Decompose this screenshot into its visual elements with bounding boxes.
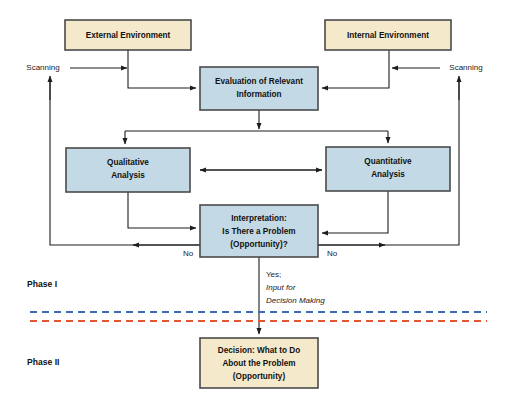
decision-label-line-1: Decision: What to Do [218, 346, 300, 355]
quantitative-analysis-box[interactable] [326, 147, 450, 191]
phase-two-label: Phase II [27, 357, 59, 367]
external-environment-label: External Environment [86, 31, 171, 40]
no-left-label: No [183, 249, 194, 258]
diagram-page: External Environment Internal Environmen… [0, 0, 507, 413]
node-internal-environment[interactable]: Internal Environment [325, 20, 451, 50]
node-decision[interactable]: Decision: What to Do About the Problem (… [200, 338, 318, 388]
flowchart-svg: External Environment Internal Environmen… [0, 0, 507, 413]
scanning-left-label: Scanning [26, 63, 59, 72]
qualitative-analysis-label-line-1: Qualitative [107, 158, 149, 167]
no-right-label: No [327, 249, 338, 258]
decision-label-line-3: (Opportunity) [233, 372, 286, 381]
decision-label-line-2: About the Problem [222, 359, 295, 368]
node-quantitative-analysis[interactable]: Quantitative Analysis [326, 147, 450, 191]
node-qualitative-analysis[interactable]: Qualitative Analysis [66, 148, 190, 192]
phase-one-label: Phase I [27, 279, 57, 289]
quantitative-analysis-label-line-1: Quantitative [364, 157, 412, 166]
interpretation-label-line-2: Is There a Problem [222, 227, 295, 236]
evaluation-box[interactable] [200, 67, 318, 110]
yes-label-line-1: Yes; [266, 270, 281, 279]
edge-quantitative-to-interpretation [322, 191, 388, 233]
scanning-right-label: Scanning [449, 63, 482, 72]
yes-label-line-3: Decision Making [266, 296, 325, 305]
edge-qualitative-to-interpretation [128, 192, 196, 228]
node-interpretation[interactable]: Interpretation: Is There a Problem (Oppo… [200, 205, 318, 257]
edge-external-to-evaluation [128, 50, 196, 88]
interpretation-label-line-3: (Opportunity)? [230, 240, 287, 249]
quantitative-analysis-label-line-2: Analysis [371, 170, 405, 179]
node-external-environment[interactable]: External Environment [65, 20, 191, 50]
evaluation-label-line-1: Evaluation of Relevant [215, 77, 303, 86]
evaluation-label-line-2: Information [236, 90, 281, 99]
edge-internal-to-evaluation [322, 50, 389, 88]
node-evaluation-of-relevant-information[interactable]: Evaluation of Relevant Information [200, 67, 318, 110]
qualitative-analysis-box[interactable] [66, 148, 190, 192]
yes-label-line-2: Input for [266, 283, 296, 292]
qualitative-analysis-label-line-2: Analysis [111, 171, 145, 180]
interpretation-label-line-1: Interpretation: [231, 214, 287, 223]
internal-environment-label: Internal Environment [347, 31, 429, 40]
